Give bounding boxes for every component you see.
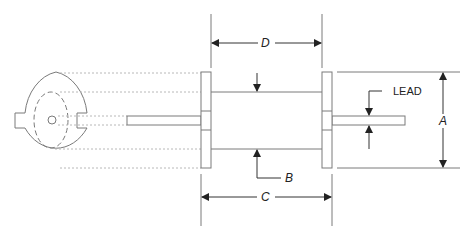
right-lead [332, 116, 405, 125]
label-B: B [283, 172, 295, 184]
spool-side-view [127, 72, 405, 168]
label-A: A [437, 115, 449, 127]
end-view-outline [15, 72, 87, 148]
label-C: C [259, 191, 272, 203]
label-lead: LEAD [391, 86, 424, 97]
label-D: D [259, 37, 272, 49]
lead-leader-top [369, 91, 382, 115]
left-flange [201, 72, 211, 168]
spool-diagram [0, 0, 473, 234]
right-flange [322, 72, 332, 168]
left-lead [127, 116, 201, 125]
end-view [15, 72, 87, 148]
dim-B-leader [257, 150, 281, 178]
